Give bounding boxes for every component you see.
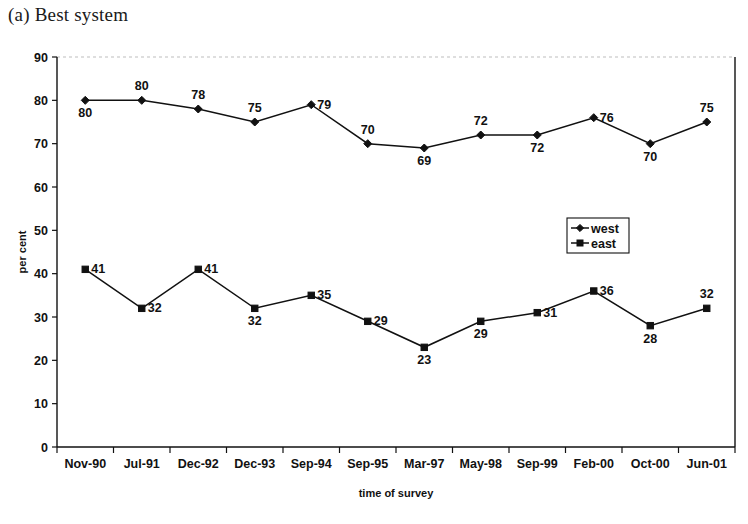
value-label-west: 79 [317,98,331,112]
x-tick-label: Dec-93 [234,457,275,471]
value-label-east: 41 [204,262,218,276]
y-tick-label: 0 [41,441,48,455]
y-tick-label: 60 [34,181,48,195]
x-tick-label: Feb-00 [574,457,614,471]
x-tick-label: Nov-90 [64,457,106,471]
figure-container: (a) Best system 0102030405060708090Nov-9… [0,0,748,524]
data-point-west [81,96,89,104]
data-point-east [534,309,540,315]
y-tick-label: 40 [34,267,48,281]
legend-marker-east [577,240,583,246]
value-label-east: 41 [91,262,105,276]
x-tick-label: Jul-91 [124,457,160,471]
series-line-east [85,269,707,347]
x-tick-label: Jun-01 [687,457,727,471]
y-tick-label: 80 [34,94,48,108]
legend-label-west: west [590,222,620,236]
value-label-east: 31 [543,306,557,320]
value-label-west: 72 [530,141,544,155]
x-tick-label: Sep-95 [347,457,388,471]
x-tick-label: May-98 [460,457,502,471]
value-label-east: 35 [317,288,331,302]
legend-label-east: east [591,237,617,251]
data-point-east [421,344,427,350]
figure-caption: (a) Best system [8,4,128,26]
value-label-east: 32 [148,301,162,315]
data-point-west [477,131,485,139]
data-point-east [82,266,88,272]
data-point-east [308,292,314,298]
x-axis-title: time of survey [359,487,434,499]
line-chart: 0102030405060708090Nov-90Jul-91Dec-92Dec… [0,30,748,524]
value-label-west: 78 [191,88,205,102]
x-tick-label: Mar-97 [404,457,444,471]
value-label-east: 32 [700,287,714,301]
data-point-east [478,318,484,324]
data-point-west [194,105,202,113]
value-label-east: 36 [600,284,614,298]
data-point-west [646,140,654,148]
data-point-west [590,114,598,122]
y-tick-label: 90 [34,51,48,65]
value-label-east: 29 [474,327,488,341]
data-point-east [195,266,201,272]
value-label-west: 75 [248,101,262,115]
data-point-west [703,118,711,126]
value-label-west: 80 [78,106,92,120]
value-label-east: 32 [248,314,262,328]
value-label-west: 70 [643,150,657,164]
y-tick-label: 50 [34,224,48,238]
x-tick-label: Sep-99 [517,457,558,471]
data-point-east [252,305,258,311]
x-tick-label: Dec-92 [178,457,219,471]
y-tick-label: 70 [34,137,48,151]
value-label-west: 76 [600,111,614,125]
x-tick-label: Sep-94 [291,457,332,471]
value-label-west: 80 [135,79,149,93]
value-label-east: 23 [417,353,431,367]
data-point-east [704,305,710,311]
value-label-west: 70 [361,123,375,137]
data-point-east [365,318,371,324]
value-label-west: 75 [700,101,714,115]
data-point-west [420,144,428,152]
value-label-west: 69 [417,154,431,168]
data-point-east [591,288,597,294]
y-tick-label: 30 [34,311,48,325]
data-point-east [647,322,653,328]
value-label-east: 28 [643,332,657,346]
data-point-west [533,131,541,139]
data-point-west [251,118,259,126]
y-tick-label: 20 [34,354,48,368]
value-label-east: 29 [374,314,388,328]
data-point-east [139,305,145,311]
data-point-west [138,96,146,104]
x-tick-label: Oct-00 [631,457,670,471]
value-label-west: 72 [474,114,488,128]
y-axis-title: per cent [16,230,28,273]
y-tick-label: 10 [34,397,48,411]
